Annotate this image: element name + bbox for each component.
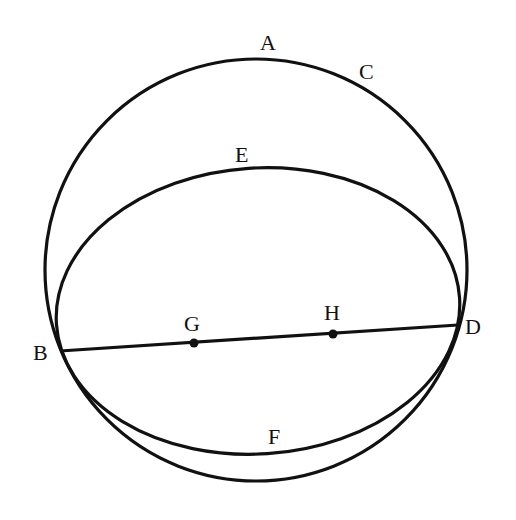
point-g-dot <box>190 339 199 348</box>
label-c: C <box>359 59 374 84</box>
label-b: B <box>33 340 48 365</box>
outer-circle <box>45 59 467 481</box>
label-g: G <box>184 311 200 336</box>
label-e: E <box>235 142 248 167</box>
label-a: A <box>260 30 276 55</box>
geometry-diagram: A C E G H D B F <box>0 0 516 520</box>
segment-bd <box>60 325 458 351</box>
label-f: F <box>268 424 280 449</box>
point-h-dot <box>329 330 338 339</box>
label-d: D <box>465 314 481 339</box>
label-h: H <box>324 300 340 325</box>
